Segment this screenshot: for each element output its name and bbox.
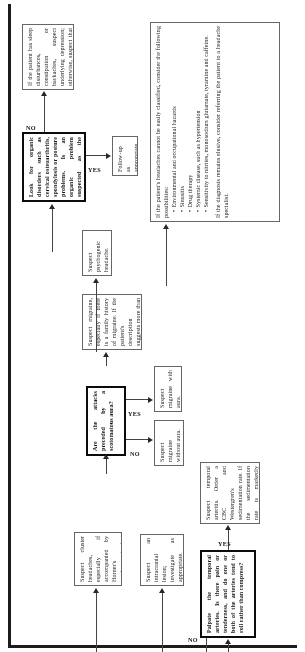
rotated-page-canvas: Palpate the temporal arteries. Is there … <box>0 0 305 652</box>
node-suspect-migraine-family-history[interactable]: Suspect migraine, especially if there is… <box>82 294 142 350</box>
node-follow-up-as-appropriate[interactable]: Follow-up as appropriate. <box>112 136 138 176</box>
node-suspect-intracranial-lesion-text: Suspect an intracranial lesion; investig… <box>144 538 184 582</box>
edge-in-aura-arrowhead <box>103 454 109 459</box>
edge-in-psychogenic <box>96 282 97 352</box>
edge-label-aura-yes: YES <box>128 410 141 417</box>
edge-aura-yes-line <box>126 399 150 400</box>
edge-in-palpate <box>228 643 229 652</box>
edge-label-organic-no: NO <box>26 124 36 131</box>
edge-in-intracranial-arrowhead <box>159 588 165 593</box>
node-look-for-organic-disorders[interactable]: Look for organic disorders such as cervi… <box>22 132 86 202</box>
edge-organic-no-arrowhead <box>41 91 47 96</box>
node-sleep-disturbances-text: If the patient has sleep disturbances, c… <box>26 28 74 86</box>
edge-in-palpate-arrowhead <box>225 639 231 644</box>
node-sleep-disturbances[interactable]: If the patient has sleep disturbances, c… <box>22 24 74 90</box>
node-suspect-temporal-arteritis[interactable]: Suspect temporal arteritis. Order a CBC … <box>200 462 260 524</box>
node-suspect-migraine-with-aura[interactable]: Suspect migraine with aura. <box>154 366 182 412</box>
edge-in-organic <box>52 208 53 252</box>
page-border-rule-top <box>8 4 11 648</box>
unclassified-closing: If the diagnosis remains elusive, consid… <box>214 26 230 218</box>
edge-aura-no-arrowhead <box>148 437 153 443</box>
edge-in-psychogenic-arrowhead <box>93 278 99 283</box>
edge-in-cluster-arrowhead <box>93 588 99 593</box>
edge-label-palpate-no: NO <box>188 636 198 643</box>
edge-organic-yes-arrowhead <box>106 153 111 159</box>
edge-in-aura <box>106 457 107 474</box>
edge-label-aura-no: NO <box>130 450 140 457</box>
unclassified-bullet: Drug therapy <box>186 26 194 212</box>
edge-in-unclassified-arrowhead <box>163 224 169 229</box>
node-suspect-migraine-without-aura[interactable]: Suspect migraine without aura. <box>154 420 184 466</box>
unclassified-bullet: Sensitivity to nitrites, monosodium glut… <box>202 26 210 212</box>
unclassified-intro: If the patient's headaches cannot be eas… <box>154 26 170 218</box>
node-suspect-migraine-family-history-text: Suspect migraine, especially if there is… <box>86 298 142 346</box>
edge-label-organic-yes: YES <box>88 166 101 173</box>
node-suspect-cluster-headaches-text: Suspect cluster headaches, especially if… <box>78 536 122 582</box>
node-palpate-temporal-arteries[interactable]: Palpate the temporal arteries. Is there … <box>200 550 256 638</box>
node-suspect-intracranial-lesion[interactable]: Suspect an intracranial lesion; investig… <box>140 534 184 586</box>
node-suspect-migraine-without-aura-text: Suspect migraine without aura. <box>158 424 182 462</box>
node-suspect-psychogenic-headache-text: Suspect psychogenic headache. <box>86 234 110 272</box>
node-scotomatous-aura-decision[interactable]: Are the attacks preceded by a scotomatou… <box>86 386 126 456</box>
unclassified-bullet: Environmental and occupational hazards <box>170 26 178 212</box>
edge-palpate-no-line <box>206 638 207 652</box>
node-suspect-migraine-with-aura-text: Suspect migraine with aura. <box>158 370 182 408</box>
unclassified-bullet: Sinusitis <box>178 26 186 212</box>
unclassified-bullet-list: Environmental and occupational hazards S… <box>170 26 210 218</box>
node-unclassified-headache-possibilities[interactable]: If the patient's headaches cannot be eas… <box>150 22 280 222</box>
node-suspect-psychogenic-headache[interactable]: Suspect psychogenic headache. <box>82 230 112 276</box>
edge-label-palpate-yes: YES <box>218 540 231 547</box>
edge-aura-yes-arrowhead <box>148 397 153 403</box>
edge-palpate-yes-arrowhead <box>225 525 231 530</box>
node-follow-up-as-appropriate-text: Follow-up as appropriate. <box>116 140 138 172</box>
node-suspect-temporal-arteritis-text: Suspect temporal arteritis. Order a CBC … <box>204 466 260 520</box>
edge-organic-yes-line <box>86 155 108 156</box>
node-scotomatous-aura-text: Are the attacks preceded by a scotomatou… <box>91 391 115 451</box>
node-suspect-cluster-headaches[interactable]: Suspect cluster headaches, especially if… <box>74 532 122 586</box>
edge-organic-no-line <box>44 94 45 132</box>
edge-in-unclassified <box>166 228 167 286</box>
edge-in-family-history-arrowhead <box>103 352 109 357</box>
node-look-for-organic-disorders-text: Look for organic disorders such as cervi… <box>27 137 86 197</box>
page-border-rule-left <box>8 645 297 648</box>
node-palpate-temporal-arteries-text: Palpate the temporal arteries. Is there … <box>205 555 245 633</box>
edge-in-intracranial <box>162 592 163 652</box>
edge-in-organic-arrowhead <box>49 204 55 209</box>
edge-in-cluster <box>96 592 97 652</box>
headache-decision-flowchart: Palpate the temporal arteries. Is there … <box>0 0 305 652</box>
unclassified-bullet: Systemic disease, such as hypertension <box>194 26 202 212</box>
edge-aura-no-line <box>126 439 150 440</box>
